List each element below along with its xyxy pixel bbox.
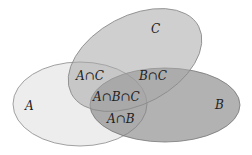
label-set-b: B bbox=[214, 98, 224, 112]
label-a-intersect-b-intersect-c: A∩B∩C bbox=[92, 90, 140, 104]
label-set-c: C bbox=[151, 22, 160, 36]
label-set-a: A bbox=[24, 99, 34, 113]
label-a-intersect-c: A∩C bbox=[75, 69, 104, 83]
venn-diagram: C A B A∩C B∩C A∩B∩C A∩B bbox=[0, 0, 252, 155]
label-b-intersect-c: B∩C bbox=[138, 69, 167, 83]
label-a-intersect-b: A∩B bbox=[106, 112, 135, 126]
